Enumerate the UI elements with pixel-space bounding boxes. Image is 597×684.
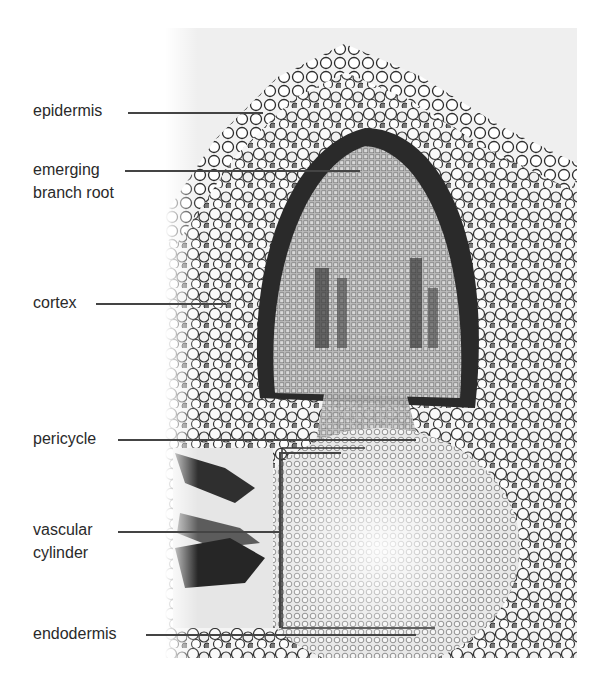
leader-vascular-cylinder — [118, 531, 280, 533]
leader-epidermis — [128, 112, 263, 114]
label-epidermis: epidermis — [33, 100, 102, 122]
label-pericycle: pericycle — [33, 428, 96, 450]
label-endodermis: endodermis — [33, 623, 117, 645]
leader-cortex — [96, 303, 226, 305]
label-vascular-cylinder-line1: vascular — [33, 519, 93, 541]
label-cortex: cortex — [33, 292, 77, 314]
leader-pericycle — [118, 439, 416, 441]
leader-vascular-cylinder-bracket-top — [279, 452, 341, 454]
label-emerging-branch-root-line1: emerging — [33, 159, 100, 181]
leader-vascular-cylinder-bracket — [279, 452, 281, 628]
leader-endodermis — [146, 634, 416, 636]
micrograph-image — [165, 28, 577, 658]
root-micrograph-figure: epidermis emerging branch root cortex pe… — [0, 0, 597, 684]
label-vascular-cylinder-line2: cylinder — [33, 542, 88, 564]
leader-emerging-branch-root — [125, 170, 360, 172]
label-emerging-branch-root-line2: branch root — [33, 182, 114, 204]
